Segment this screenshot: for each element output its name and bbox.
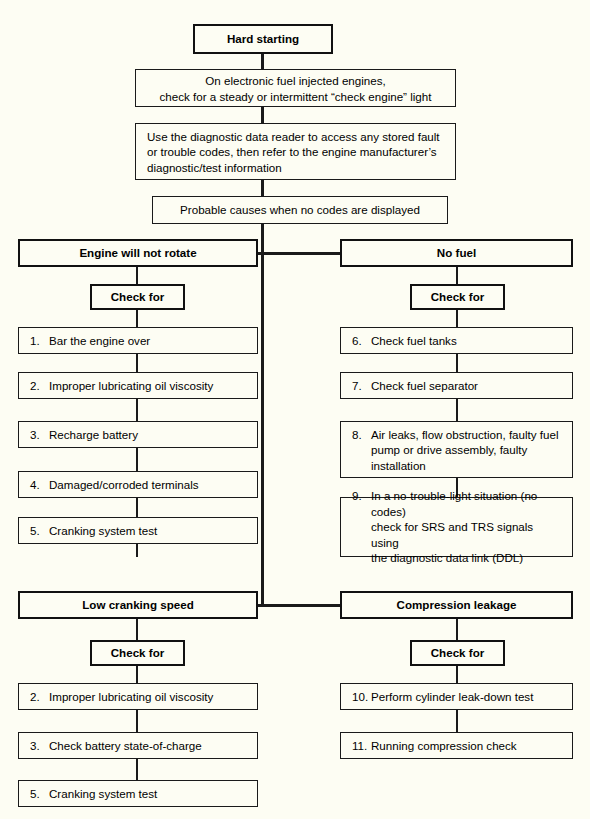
item-9-no-trouble-light-situation: 9.In a no-trouble-light situation (no co… <box>340 497 573 557</box>
item-8-line2: pump or drive assembly, faulty <box>371 443 527 456</box>
checkfor-compression-leakage: Check for <box>410 640 505 666</box>
node-data-reader-line1: Use the diagnostic data reader to access… <box>147 129 440 142</box>
node-hard-starting-label: Hard starting <box>195 31 331 47</box>
connector-efi-to-reader <box>261 106 264 123</box>
checkfor-low-cranking-speed: Check for <box>90 640 185 666</box>
connector-row2-tie-bar <box>255 604 345 607</box>
branch-heading-low-cranking-speed: Low cranking speed <box>18 591 258 619</box>
node-data-reader: Use the diagnostic data reader to access… <box>135 123 456 180</box>
connector-causes-to-branch-spine <box>261 223 264 606</box>
item-9-line2: check for SRS and TRS signals using <box>371 520 533 549</box>
branch-heading-engine-will-not-rotate: Engine will not rotate <box>18 239 258 267</box>
item-7-check-fuel-separator: 7.Check fuel separator <box>340 372 573 399</box>
connector-right1-head-to-checkfor <box>456 266 458 284</box>
branch-heading-compression-leakage: Compression leakage <box>340 591 573 619</box>
item-5-cranking-system-test-low-crank: 5.Cranking system test <box>18 780 258 807</box>
node-data-reader-line2: or trouble codes, then refer to the engi… <box>147 145 437 158</box>
item-8-line1: Air leaks, flow obstruction, faulty fuel <box>371 427 559 440</box>
item-2-improper-lubricating-oil-viscosity: 2.Improper lubricating oil viscosity <box>18 372 258 399</box>
item-9-line1: In a no-trouble-light situation (no code… <box>371 489 537 518</box>
item-5-cranking-system-test: 5.Cranking system test <box>18 517 258 544</box>
node-efi-check-line1: On electronic fuel injected engines, <box>205 74 385 87</box>
item-6-check-fuel-tanks: 6.Check fuel tanks <box>340 327 573 354</box>
item-8-air-leaks-flow-obstruction: 8.Air leaks, flow obstruction, faulty fu… <box>340 421 573 478</box>
connector-row1-tie-bar <box>255 252 345 255</box>
item-11-running-compression-check: 11.Running compression check <box>340 732 573 759</box>
item-3-recharge-battery: 3.Recharge battery <box>18 421 258 448</box>
node-efi-check: On electronic fuel injected engines, che… <box>135 69 456 107</box>
flowchart-page: Hard starting On electronic fuel injecte… <box>0 0 590 819</box>
node-data-reader-line3: diagnostic/test information <box>147 160 282 173</box>
node-probable-causes-label: Probable causes when no codes are displa… <box>153 202 447 218</box>
item-8-line3: installation <box>371 458 426 471</box>
connector-right2-head-to-checkfor <box>456 618 458 640</box>
checkfor-engine-will-not-rotate: Check for <box>90 284 185 310</box>
node-hard-starting: Hard starting <box>193 24 333 54</box>
item-3-check-battery-state-of-charge: 3.Check battery state-of-charge <box>18 732 258 759</box>
node-probable-causes: Probable causes when no codes are displa… <box>152 196 448 224</box>
item-4-damaged-corroded-terminals: 4.Damaged/corroded terminals <box>18 471 258 498</box>
node-efi-check-line2: check for a steady or intermittent “chec… <box>160 89 432 102</box>
connector-left1-head-to-checkfor <box>136 266 138 284</box>
item-9-line3: the diagnostic data link (DDL) <box>371 551 523 564</box>
item-1-bar-the-engine-over: 1.Bar the engine over <box>18 327 258 354</box>
connector-left2-head-to-checkfor <box>136 618 138 640</box>
checkfor-no-fuel: Check for <box>410 284 505 310</box>
connector-root-to-efi <box>261 53 264 69</box>
item-10-perform-cylinder-leak-down-test: 10.Perform cylinder leak-down test <box>340 683 573 710</box>
item-2-improper-lubricating-oil-viscosity-low-crank: 2.Improper lubricating oil viscosity <box>18 683 258 710</box>
branch-heading-no-fuel: No fuel <box>340 239 573 267</box>
connector-reader-to-causes <box>261 179 264 196</box>
